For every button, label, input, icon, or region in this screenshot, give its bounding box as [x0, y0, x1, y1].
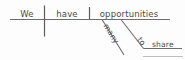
direct-object-word: opportunities: [100, 9, 159, 19]
infinitive-marker-word: to: [136, 36, 148, 48]
adjective-word: many: [101, 22, 120, 46]
subject-word: We: [20, 9, 33, 19]
sentence-diagram: We have opportunities many to share: [0, 0, 185, 60]
sentence-diagram-canvas: We have opportunities many to share: [0, 0, 185, 60]
verb-word: have: [56, 9, 77, 19]
infinitive-verb-word: share: [152, 40, 174, 49]
